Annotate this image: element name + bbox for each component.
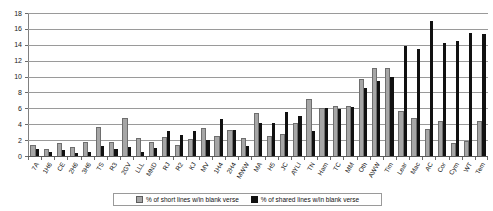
x-axis-label-slot: JC (278, 160, 291, 190)
bar-group (212, 13, 225, 156)
bar-group (370, 13, 383, 156)
bar-group (343, 13, 356, 156)
chart-legend: % of short lines w/in blank verse% of sh… (113, 193, 382, 206)
bar-group (199, 13, 212, 156)
x-axis-label-slot: WT (462, 160, 475, 190)
bar-shared-lines (167, 131, 170, 156)
x-axis-label-slot: AYLI (291, 160, 304, 190)
legend-item: % of short lines w/in blank verse (136, 196, 239, 203)
bar-shared-lines (220, 119, 223, 156)
bar-group (475, 13, 488, 156)
bar-group (265, 13, 278, 156)
y-axis-tick-mark (25, 29, 28, 30)
y-axis-tick-label: 12 (6, 57, 22, 64)
bar-group (304, 13, 317, 156)
plot-area (28, 13, 488, 156)
y-axis-tick-mark (25, 77, 28, 78)
bar-group (278, 13, 291, 156)
bar-shared-lines (482, 34, 485, 156)
x-axis-label-slot: MND (146, 160, 159, 190)
bar-shared-lines (285, 112, 288, 156)
bar-group (317, 13, 330, 156)
x-axis-label-slot: MM (343, 160, 356, 190)
x-axis-label-slot: AC (422, 160, 435, 190)
bar-shared-lines (272, 123, 275, 156)
bar-group (146, 13, 159, 156)
x-axis-label-slot: Mac (409, 160, 422, 190)
y-axis-tick-label: 10 (6, 73, 22, 80)
bar-group (330, 13, 343, 156)
x-axis-label-slot: R3 (107, 160, 120, 190)
bar-group (396, 13, 409, 156)
y-axis-tick-mark (25, 108, 28, 109)
bar-shared-lines (417, 49, 420, 156)
x-axis-label-slot: 3H6 (81, 160, 94, 190)
x-axis-label-slot: 1H6 (41, 160, 54, 190)
x-axis-label-slot: AWW (370, 160, 383, 190)
bar-group (159, 13, 172, 156)
bar-group (422, 13, 435, 156)
y-axis-tick-label: 0 (6, 153, 22, 160)
x-axis-label-slot: CE (54, 160, 67, 190)
x-axis-label-slot: KJ (186, 160, 199, 190)
bar-group (186, 13, 199, 156)
x-axis-label-slot: 7A (28, 160, 41, 190)
y-axis-tick-mark (25, 92, 28, 93)
x-axis-label-slot: Ham (317, 160, 330, 190)
bar-group (238, 13, 251, 156)
bar-group (449, 13, 462, 156)
x-axis-label-slot: MV (199, 160, 212, 190)
bar-shared-lines (259, 123, 262, 156)
bar-shared-lines (193, 131, 196, 156)
bar-group (28, 13, 41, 156)
bar-shared-lines (469, 33, 472, 156)
bar-group (383, 13, 396, 156)
x-axis-label-slot: MWW (238, 160, 251, 190)
x-axis-label-slot: TC (330, 160, 343, 190)
bar-group (94, 13, 107, 156)
x-axis-label-slot: Lear (396, 160, 409, 190)
x-axis-label-slot: LLL (133, 160, 146, 190)
bar-series-container (28, 13, 488, 156)
bar-group (41, 13, 54, 156)
legend-label: % of shared lines w/in blank verse (261, 196, 359, 203)
x-axis-tick-labels: 7A1H6CE2H63H6TSR32GVLLLMNDRJR2KJMV1H42H4… (28, 160, 488, 190)
x-axis-label-slot: 1H4 (212, 160, 225, 190)
y-axis-tick-mark (25, 45, 28, 46)
y-axis-tick-label: 14 (6, 41, 22, 48)
bar-shared-lines (456, 41, 459, 156)
bar-shared-lines (430, 21, 433, 156)
x-axis-label-slot: Cor (435, 160, 448, 190)
x-axis-label-slot: Tim (383, 160, 396, 190)
bar-group (409, 13, 422, 156)
y-axis-tick-mark (25, 140, 28, 141)
x-axis-label-slot: TS (94, 160, 107, 190)
bar-group (251, 13, 264, 156)
bar-group (357, 13, 370, 156)
x-axis-label-slot: Tem (475, 160, 488, 190)
legend-swatch-shared-lines (251, 196, 258, 203)
x-axis-label-slot: R2 (173, 160, 186, 190)
bar-shared-lines (325, 108, 328, 156)
y-axis-tick-mark (25, 13, 28, 14)
y-axis-tick-label: 18 (6, 10, 22, 17)
y-axis-tick-label: 2 (6, 137, 22, 144)
bar-shared-lines (390, 77, 393, 156)
x-axis-label-slot: RJ (159, 160, 172, 190)
x-axis-label-slot: 2GV (120, 160, 133, 190)
bar-group (462, 13, 475, 156)
bar-shared-lines (351, 107, 354, 156)
bar-shared-lines (312, 131, 315, 156)
bar-group (107, 13, 120, 156)
legend-swatch-short-lines (136, 196, 143, 203)
bar-shared-lines (364, 88, 367, 156)
legend-label: % of short lines w/in blank verse (146, 196, 239, 203)
bar-group (291, 13, 304, 156)
y-axis-tick-label: 8 (6, 89, 22, 96)
y-axis-tick-label: 6 (6, 105, 22, 112)
y-axis-tick-mark (25, 124, 28, 125)
bar-group (81, 13, 94, 156)
x-axis-label-slot: MA (251, 160, 264, 190)
bar-group (225, 13, 238, 156)
bar-group (173, 13, 186, 156)
